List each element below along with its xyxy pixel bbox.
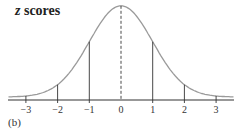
x-tick-label: 2 [182,104,187,115]
x-tick-label: 3 [214,104,219,115]
x-tick-label: −1 [84,104,95,115]
x-tick-label: −3 [21,104,32,115]
x-tick-label: 0 [119,104,124,115]
panel-label: (b) [8,116,21,128]
x-tick-label: 1 [150,104,155,115]
normal-curve-plot: −3−2−10123 [0,0,234,132]
x-tick-label: −2 [52,104,63,115]
